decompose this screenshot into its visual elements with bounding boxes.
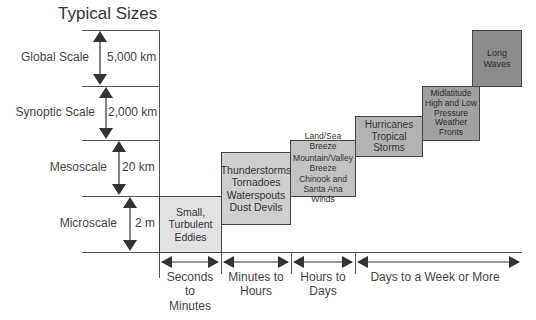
scale-label-micro: Microscale — [60, 216, 117, 230]
scale-label-synoptic: Synoptic Scale — [16, 105, 95, 119]
phenomenon-box-thunderstorms: ThunderstormsTornadoesWaterspoutsDust De… — [221, 152, 291, 225]
phenomenon-box-long-waves: LongWaves — [472, 30, 522, 87]
scale-label-global: Global Scale — [21, 50, 89, 64]
phenomenon-box-midlatitude: MidlatitudeHigh and LowPressureWeather F… — [422, 86, 480, 141]
phenomenon-box-land-sea-breeze: Land/Sea BreezeMountain/ValleyBreezeChin… — [290, 140, 356, 197]
size-label-synoptic: 2,000 km — [108, 105, 157, 119]
phenomenon-box-turbulent-eddies: Small,TurbulentEddies — [159, 196, 222, 253]
time-label-hours-to-days: Hours to Days — [291, 270, 355, 299]
time-label-days-to-week: Days to a Week or More — [355, 270, 515, 284]
phenomenon-box-hurricanes: HurricanesTropical Storms — [355, 116, 423, 157]
scale-label-meso: Mesoscale — [50, 160, 107, 174]
size-label-meso: 20 km — [122, 160, 155, 174]
time-label-seconds-to-minutes: Seconds to Minutes — [159, 270, 221, 313]
time-label-minutes-to-hours: Minutes to Hours — [221, 270, 291, 299]
size-label-global: 5,000 km — [107, 50, 156, 64]
size-label-micro: 2 m — [135, 216, 155, 230]
